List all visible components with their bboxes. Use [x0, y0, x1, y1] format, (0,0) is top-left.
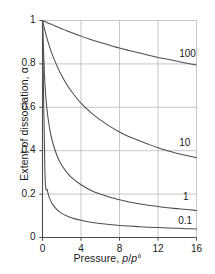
x-axis-label-text: Pressure, p/p° [73, 252, 141, 264]
grid-lines [43, 21, 197, 238]
y-tick-label: 0.2 [10, 188, 36, 199]
x-tick-label: 4 [71, 243, 91, 254]
curve-label-0.1: 0.1 [178, 215, 192, 226]
y-tick-label: 1 [10, 14, 36, 25]
y-tick-label: 0.6 [10, 101, 36, 112]
x-tick-label: 12 [148, 243, 168, 254]
chart-figure: Extent of dissociation, α Pressure, p/p°… [0, 0, 215, 274]
curve-label-100: 100 [179, 48, 196, 59]
y-tick-label: 0.8 [10, 57, 36, 68]
x-tick-label: 8 [110, 243, 130, 254]
x-tick-label: 0 [33, 243, 53, 254]
x-axis-label: Pressure, p/p° [0, 252, 215, 264]
curve-label-1: 1 [183, 191, 189, 202]
x-tick-label: 16 [187, 243, 207, 254]
curve-label-10: 10 [179, 137, 190, 148]
y-tick-label: 0.4 [10, 144, 36, 155]
y-tick-label: 0 [10, 231, 36, 242]
